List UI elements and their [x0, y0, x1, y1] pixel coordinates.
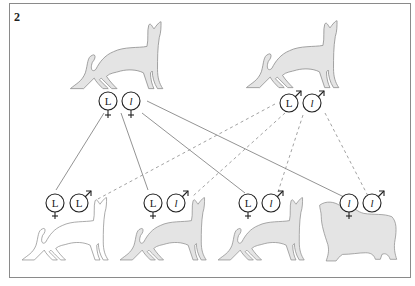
offspring-1-paternal-allele: L: [70, 191, 91, 212]
offspring-4: l l: [320, 191, 397, 261]
line-mother-L-to-kitten3: [142, 113, 245, 193]
cat-silhouette-icon: [246, 21, 338, 88]
svg-text:L: L: [76, 197, 83, 209]
offspring-2: L l: [120, 191, 206, 260]
cat-silhouette-icon: [120, 198, 206, 260]
line-mother-l-to-kitten4: [147, 101, 344, 197]
line-father-l-to-kitten2: [193, 113, 285, 196]
offspring-3-paternal-allele: l: [262, 191, 283, 212]
offspring-1: L L: [22, 191, 108, 260]
svg-text:L: L: [105, 95, 112, 107]
mother-allele-l: l: [122, 92, 140, 118]
cat-silhouette-icon: [70, 22, 162, 89]
svg-text:L: L: [52, 197, 59, 209]
line-mother-L-to-kitten2: [121, 113, 148, 190]
line-father-l-to-kitten3: [277, 115, 303, 195]
svg-text:L: L: [150, 197, 157, 209]
svg-text:l: l: [129, 95, 132, 107]
svg-text:l: l: [174, 197, 177, 209]
svg-text:l: l: [310, 97, 313, 109]
offspring-2-paternal-allele: l: [167, 191, 188, 212]
father-cat: [246, 21, 338, 88]
cat-silhouette-icon: [218, 198, 304, 260]
longhair-cat-silhouette-icon: [320, 202, 397, 261]
father-allele-l: l: [303, 91, 324, 112]
maternal-lines: [56, 101, 344, 197]
svg-text:l: l: [347, 197, 350, 209]
mother-cat: [70, 22, 162, 89]
offspring-4-paternal-allele: l: [363, 191, 384, 212]
father-allele-L: L: [280, 91, 301, 112]
svg-text:l: l: [370, 197, 373, 209]
offspring-2-maternal-allele: L: [144, 194, 162, 219]
line-mother-L-to-kitten1: [56, 113, 104, 190]
paternal-lines: [96, 104, 368, 200]
svg-text:L: L: [286, 97, 293, 109]
svg-text:l: l: [269, 197, 272, 209]
offspring-1-maternal-allele: L: [46, 194, 64, 219]
cat-silhouette-icon: [22, 198, 108, 260]
line-father-l-to-kitten4: [325, 113, 368, 196]
mother-allele-L: L: [99, 92, 117, 118]
svg-text:L: L: [245, 197, 252, 209]
offspring-3: L l: [218, 191, 304, 260]
offspring-3-maternal-allele: L: [239, 194, 257, 219]
